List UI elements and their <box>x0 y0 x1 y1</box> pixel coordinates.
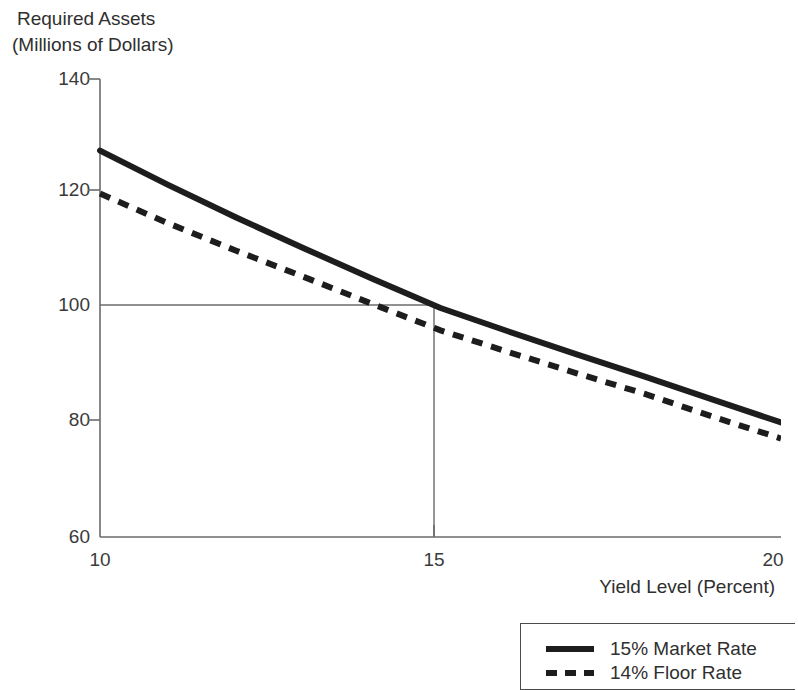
legend-item-floor-rate: 14% Floor Rate <box>546 661 742 685</box>
series-line-market-rate <box>100 151 781 423</box>
chart-legend: 15% Market Rate 14% Floor Rate <box>520 623 795 690</box>
legend-swatch-solid-line-icon <box>546 646 594 652</box>
legend-swatch-dashed-line-icon <box>546 670 594 676</box>
series-line-floor-rate <box>100 194 781 439</box>
legend-label-market-rate: 15% Market Rate <box>610 638 757 660</box>
reference-lines-group <box>100 305 434 537</box>
legend-item-market-rate: 15% Market Rate <box>546 637 757 661</box>
legend-label-floor-rate: 14% Floor Rate <box>610 662 742 684</box>
series-group <box>100 151 781 439</box>
